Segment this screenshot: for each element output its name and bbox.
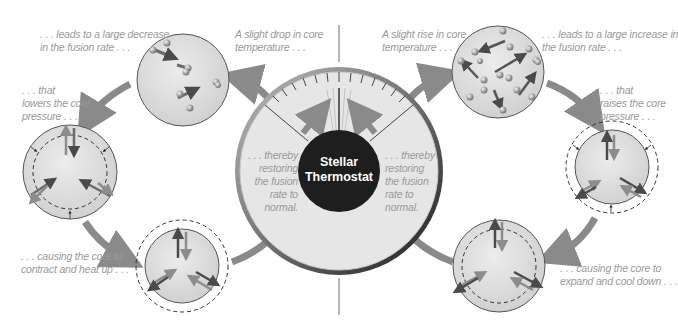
- label-restoring-left: . . . thereby restoring the fusion rate …: [248, 149, 298, 214]
- title-line-2: Thermostat: [289, 170, 389, 185]
- label-large-increase: . . . leads to a large increase in the f…: [542, 28, 678, 54]
- label-slight-rise: A slight rise in core temperature . . .: [382, 28, 466, 54]
- label-lowers-pressure: . . . that lowers the core pressure . . …: [22, 84, 90, 123]
- label-large-decrease: . . . leads to a large decrease in the f…: [40, 28, 169, 54]
- raise-pressure-circle: [566, 121, 658, 213]
- label-slight-drop: A slight drop in core temperature . . .: [235, 28, 323, 54]
- stellar-thermostat-title: Stellar Thermostat: [289, 155, 389, 185]
- label-raises-pressure: . . . that raises the core pressure . . …: [600, 84, 666, 123]
- label-restoring-right: . . . thereby restoring the fusion rate …: [385, 149, 435, 214]
- contract-circle: [136, 220, 228, 312]
- label-expand-cool: . . . causing the core to expand and coo…: [560, 262, 677, 288]
- label-contract-heat: . . . causing the core to contract and h…: [21, 250, 129, 276]
- title-line-1: Stellar: [289, 155, 389, 170]
- lower-pressure-circle: [23, 125, 117, 219]
- expand-circle: [453, 220, 545, 312]
